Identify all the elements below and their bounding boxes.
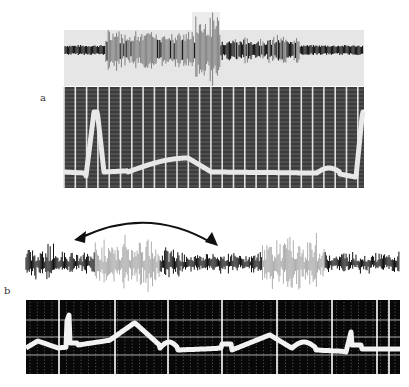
panel-a-top-bg [192,12,220,32]
figure-canvas [0,0,409,387]
